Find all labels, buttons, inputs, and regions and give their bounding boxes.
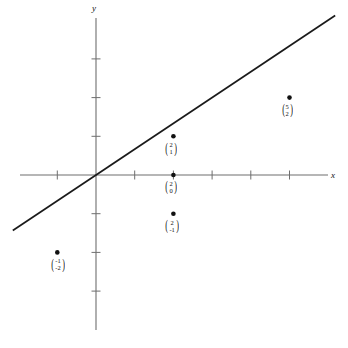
- right-parenthesis: ): [174, 144, 177, 153]
- left-parenthesis: (: [166, 182, 169, 191]
- point-vector-label: (52): [281, 103, 294, 117]
- right-parenthesis: ): [62, 260, 65, 269]
- vector-top-value: 5: [286, 103, 289, 110]
- vector-bottom-value: 2: [286, 110, 289, 117]
- vector-components: 20: [169, 180, 172, 194]
- left-parenthesis: (: [282, 105, 285, 114]
- vector-top-value: 2: [170, 219, 173, 226]
- point-vector-label: (20): [164, 180, 177, 194]
- left-parenthesis: (: [166, 221, 169, 230]
- data-point-marker: [55, 250, 60, 255]
- data-point-marker: [287, 95, 292, 100]
- x-axis-label: x: [331, 171, 335, 180]
- vector-top-value: 2: [169, 180, 172, 187]
- right-parenthesis: ): [290, 105, 293, 114]
- plot-canvas: [0, 0, 348, 348]
- vector-bottom-value: 0: [169, 187, 172, 194]
- vector-bottom-value: -1: [169, 226, 174, 233]
- vector-bottom-value: 1: [169, 148, 172, 155]
- left-parenthesis: (: [51, 260, 54, 269]
- plotted-line: [13, 16, 335, 231]
- coordinate-plot-figure: y x (-1-2)(21)(20)(2-1)(52): [0, 0, 348, 348]
- point-vector-label: (2-1): [164, 219, 179, 233]
- vector-bottom-value: -2: [55, 264, 60, 271]
- right-parenthesis: ): [176, 221, 179, 230]
- data-point-marker: [171, 211, 176, 216]
- vector-components: 2-1: [169, 219, 174, 233]
- vector-components: 52: [286, 103, 289, 117]
- vector-top-value: -1: [55, 257, 60, 264]
- data-point-marker: [171, 134, 176, 139]
- vector-components: 21: [169, 141, 172, 155]
- y-axis-label: y: [92, 4, 96, 13]
- point-vector-label: (-1-2): [50, 257, 65, 271]
- point-vector-label: (21): [164, 141, 177, 155]
- right-parenthesis: ): [174, 182, 177, 191]
- left-parenthesis: (: [166, 144, 169, 153]
- vector-components: -1-2: [55, 257, 60, 271]
- data-point-marker: [171, 173, 176, 178]
- line-segment: [13, 16, 335, 231]
- vector-top-value: 2: [169, 141, 172, 148]
